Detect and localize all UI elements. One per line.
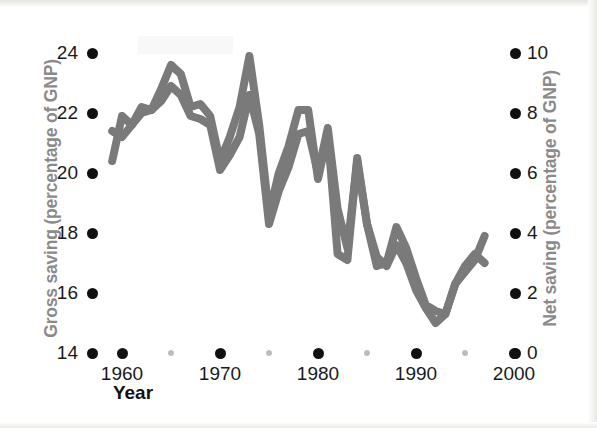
y-axis-tick-label: 20 <box>38 162 78 184</box>
y2-axis-tick-dot <box>510 108 521 119</box>
x-axis-tick-label: 1980 <box>283 363 353 385</box>
x-axis-minor-tick-dot <box>168 350 174 356</box>
chart-figure: Gross saving (percentage of GNP) Net sav… <box>0 0 597 428</box>
y-axis-tick-dot <box>87 348 98 359</box>
x-axis-minor-tick-dot <box>462 350 468 356</box>
y-axis-tick-label: 22 <box>38 102 78 124</box>
y2-axis-tick-label: 0 <box>527 342 567 364</box>
y-axis-tick-label: 14 <box>38 342 78 364</box>
y-axis-tick-dot <box>87 288 98 299</box>
x-axis-tick-label: 1990 <box>381 363 451 385</box>
x-axis-tick-dot <box>411 348 422 359</box>
x-axis-tick-label: 1960 <box>87 363 157 385</box>
y-axis-tick-label: 16 <box>38 282 78 304</box>
y-axis-tick-dot <box>87 48 98 59</box>
y-axis-tick-dot <box>87 228 98 239</box>
y-axis-tick-label: 24 <box>38 42 78 64</box>
y2-axis-tick-dot <box>510 288 521 299</box>
y2-axis-tick-dot <box>510 48 521 59</box>
y2-axis-tick-label: 6 <box>527 162 567 184</box>
x-axis-tick-dot <box>215 348 226 359</box>
y2-axis-tick-dot <box>510 168 521 179</box>
x-axis-tick-label: 1970 <box>185 363 255 385</box>
y2-axis-tick-label: 8 <box>527 102 567 124</box>
y2-axis-tick-label: 2 <box>527 282 567 304</box>
x-axis-minor-tick-dot <box>364 350 370 356</box>
x-axis-tick-label: 2000 <box>479 363 549 385</box>
x-axis-tick-dot <box>509 348 520 359</box>
y-axis-tick-dot <box>87 108 98 119</box>
y-axis-tick-label: 18 <box>38 222 78 244</box>
x-axis-tick-dot <box>313 348 324 359</box>
x-axis-title: Year <box>98 382 168 404</box>
x-axis-minor-tick-dot <box>266 350 272 356</box>
y2-axis-tick-dot <box>510 228 521 239</box>
x-axis-tick-dot <box>117 348 128 359</box>
y2-axis-tick-label: 10 <box>527 42 567 64</box>
y2-axis-tick-label: 4 <box>527 222 567 244</box>
y-axis-tick-dot <box>87 168 98 179</box>
